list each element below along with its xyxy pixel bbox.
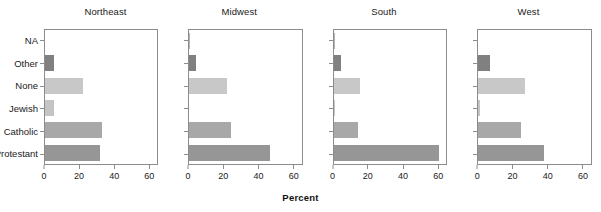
bar-row — [334, 75, 447, 97]
x-tick: 0 — [185, 165, 190, 181]
x-tick: 0 — [475, 165, 480, 181]
x-tick-label: 60 — [289, 171, 299, 181]
bar-row — [189, 52, 302, 74]
facet-panel-grid: Northeast NA Other None Jewish Catholic … — [0, 0, 601, 190]
panel-title-northeast: Northeast — [0, 6, 167, 17]
bar-catholic — [45, 122, 102, 138]
x-tick: 20 — [363, 165, 373, 181]
x-tick-label: 0 — [41, 171, 46, 181]
x-tick-mark — [149, 165, 150, 169]
bar-protestant — [478, 145, 544, 161]
facet-panel-south: South 0204060 — [312, 0, 457, 190]
x-tick-mark — [512, 165, 513, 169]
x-tick-mark — [367, 165, 368, 169]
x-tick: 60 — [433, 165, 443, 181]
x-tick-label: 60 — [433, 171, 443, 181]
x-axis-midwest: 0204060 — [188, 165, 303, 187]
x-axis-northeast: 0204060 — [44, 165, 158, 187]
x-tick-mark — [438, 165, 439, 169]
bar-other — [334, 55, 341, 71]
x-tick-mark — [114, 165, 115, 169]
bar-other — [45, 55, 54, 71]
bar-none — [334, 78, 360, 94]
x-tick: 60 — [144, 165, 154, 181]
x-tick-label: 0 — [330, 171, 335, 181]
plot-area-south — [333, 29, 448, 165]
x-tick-mark — [43, 165, 44, 169]
x-tick-mark — [293, 165, 294, 169]
plot-area-west — [477, 29, 592, 165]
facet-panel-west: West 0204060 — [456, 0, 601, 190]
y-axis-label-jewish: Jewish — [0, 97, 44, 120]
bar-rows — [478, 30, 591, 164]
bar-row — [45, 97, 157, 119]
x-tick: 40 — [109, 165, 119, 181]
bar-rows — [45, 30, 157, 164]
bar-catholic — [189, 122, 231, 138]
facet-panel-northeast: Northeast NA Other None Jewish Catholic … — [0, 0, 167, 190]
x-tick: 20 — [74, 165, 84, 181]
bar-row — [478, 52, 591, 74]
panel-title-midwest: Midwest — [167, 6, 312, 17]
x-tick: 20 — [218, 165, 228, 181]
bar-row — [45, 75, 157, 97]
bar-row — [334, 30, 447, 52]
x-tick: 40 — [254, 165, 264, 181]
x-tick-mark — [547, 165, 548, 169]
x-tick-mark — [223, 165, 224, 169]
panel-title-south: South — [312, 6, 457, 17]
x-tick-mark — [403, 165, 404, 169]
x-tick-label: 20 — [218, 171, 228, 181]
bar-row — [189, 97, 302, 119]
x-tick: 40 — [543, 165, 553, 181]
x-tick-label: 20 — [74, 171, 84, 181]
bar-na — [189, 33, 190, 49]
x-tick-mark — [187, 165, 188, 169]
x-tick-label: 20 — [507, 171, 517, 181]
y-axis-label-protestant: Protestant — [0, 142, 44, 165]
bar-row — [189, 75, 302, 97]
x-tick-mark — [582, 165, 583, 169]
bar-none — [45, 78, 83, 94]
x-tick-mark — [477, 165, 478, 169]
y-axis-label-none: None — [0, 74, 44, 97]
bar-row — [334, 97, 447, 119]
bar-row — [189, 30, 302, 52]
plot-area-midwest — [188, 29, 303, 165]
x-tick-label: 40 — [109, 171, 119, 181]
bar-protestant — [45, 145, 100, 161]
bar-protestant — [334, 145, 440, 161]
x-tick-mark — [258, 165, 259, 169]
chart-figure: Northeast NA Other None Jewish Catholic … — [0, 0, 601, 212]
y-axis-label-catholic: Catholic — [0, 120, 44, 143]
y-axis-labels: NA Other None Jewish Catholic Protestant — [0, 29, 44, 165]
facet-panel-midwest: Midwest 0204060 — [167, 0, 312, 190]
bar-na — [334, 33, 335, 49]
x-tick: 0 — [41, 165, 46, 181]
bar-row — [45, 30, 157, 52]
bar-jewish — [334, 100, 335, 116]
bar-row — [189, 142, 302, 164]
bar-catholic — [478, 122, 521, 138]
y-axis-label-na: NA — [0, 29, 44, 52]
bar-row — [45, 119, 157, 141]
bar-row — [478, 30, 591, 52]
bar-none — [478, 78, 525, 94]
bar-row — [334, 142, 447, 164]
x-axis-west: 0204060 — [477, 165, 592, 187]
bar-row — [45, 142, 157, 164]
x-tick-label: 0 — [475, 171, 480, 181]
y-axis-label-other: Other — [0, 52, 44, 75]
x-tick-mark — [79, 165, 80, 169]
bar-row — [334, 119, 447, 141]
x-tick-mark — [332, 165, 333, 169]
bar-jewish — [45, 100, 54, 116]
x-tick: 60 — [289, 165, 299, 181]
x-tick: 0 — [330, 165, 335, 181]
x-tick: 40 — [398, 165, 408, 181]
bar-row — [334, 52, 447, 74]
x-tick-label: 60 — [144, 171, 154, 181]
bar-row — [189, 119, 302, 141]
bar-row — [478, 97, 591, 119]
bar-none — [189, 78, 227, 94]
